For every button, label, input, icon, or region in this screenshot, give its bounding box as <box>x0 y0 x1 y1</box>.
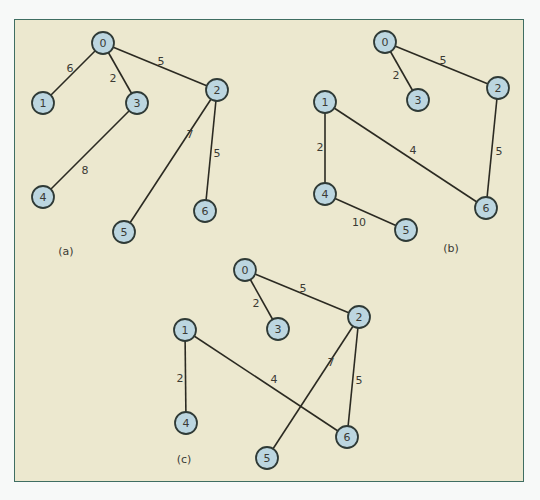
node-label: 2 <box>214 84 221 97</box>
edge-weight-b-1-6: 4 <box>410 144 417 157</box>
node-b-2: 2 <box>487 77 509 99</box>
node-a-1: 1 <box>32 92 54 114</box>
edge-weight-c-1-4: 2 <box>177 372 184 385</box>
node-b-4: 4 <box>314 183 336 205</box>
edge-weight-b-0-3: 2 <box>393 69 400 82</box>
node-a-0: 0 <box>92 32 114 54</box>
node-c-1: 1 <box>174 319 196 341</box>
node-label: 2 <box>356 311 363 324</box>
graph-caption-c: (c) <box>177 453 192 466</box>
node-a-4: 4 <box>32 186 54 208</box>
node-label: 5 <box>403 224 410 237</box>
node-label: 3 <box>134 97 141 110</box>
graph-caption-b: (b) <box>443 242 459 255</box>
node-label: 5 <box>121 226 128 239</box>
edge-a-3-4 <box>43 103 137 197</box>
node-label: 5 <box>264 452 271 465</box>
edge-weight-a-0-2: 5 <box>158 55 165 68</box>
nodes-layer: 012345601234560123456 <box>32 31 509 469</box>
edge-weight-b-4-5: 10 <box>352 216 366 229</box>
node-label: 3 <box>415 94 422 107</box>
node-label: 2 <box>495 82 502 95</box>
node-label: 6 <box>202 205 209 218</box>
node-b-5: 5 <box>395 219 417 241</box>
edge-weight-a-0-3: 2 <box>110 72 117 85</box>
edge-weight-c-1-6: 4 <box>271 373 278 386</box>
graph-caption-a: (a) <box>58 245 73 258</box>
graph-diagram: 012345601234560123456 625875(a)2524510(b… <box>0 0 540 500</box>
node-c-5: 5 <box>256 447 278 469</box>
node-a-3: 3 <box>126 92 148 114</box>
node-label: 4 <box>40 191 47 204</box>
node-label: 0 <box>242 264 249 277</box>
node-b-0: 0 <box>374 31 396 53</box>
node-label: 3 <box>275 323 282 336</box>
node-label: 0 <box>100 37 107 50</box>
edge-weight-c-0-3: 2 <box>253 297 260 310</box>
edge-weight-c-2-6: 5 <box>356 374 363 387</box>
edge-weight-a-2-5: 7 <box>187 128 194 141</box>
edge-weight-a-3-4: 8 <box>82 164 89 177</box>
node-label: 6 <box>344 431 351 444</box>
node-a-6: 6 <box>194 200 216 222</box>
edge-weight-b-0-2: 5 <box>440 54 447 67</box>
edge-c-1-4 <box>185 330 186 423</box>
edge-weight-a-0-1: 6 <box>67 62 74 75</box>
edge-weight-b-2-6: 5 <box>496 145 503 158</box>
node-label: 1 <box>322 96 329 109</box>
node-c-3: 3 <box>267 318 289 340</box>
edges-layer <box>43 42 498 458</box>
node-a-5: 5 <box>113 221 135 243</box>
node-label: 1 <box>182 324 189 337</box>
figure-stage: 012345601234560123456 625875(a)2524510(b… <box>0 0 540 500</box>
node-b-3: 3 <box>407 89 429 111</box>
node-c-6: 6 <box>336 426 358 448</box>
node-c-2: 2 <box>348 306 370 328</box>
node-label: 1 <box>40 97 47 110</box>
node-a-2: 2 <box>206 79 228 101</box>
edge-weight-c-0-2: 5 <box>300 282 307 295</box>
edge-b-1-6 <box>325 102 486 208</box>
node-label: 4 <box>183 417 190 430</box>
node-label: 4 <box>322 188 329 201</box>
node-c-4: 4 <box>175 412 197 434</box>
node-c-0: 0 <box>234 259 256 281</box>
node-label: 6 <box>483 202 490 215</box>
node-b-1: 1 <box>314 91 336 113</box>
edge-weight-b-1-4: 2 <box>317 141 324 154</box>
edge-c-1-6 <box>185 330 347 437</box>
edge-weight-a-2-6: 5 <box>214 147 221 160</box>
edge-weight-c-2-5: 7 <box>328 356 335 369</box>
node-label: 0 <box>382 36 389 49</box>
node-b-6: 6 <box>475 197 497 219</box>
